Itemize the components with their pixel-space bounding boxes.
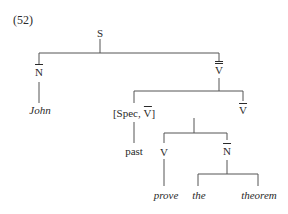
node-spec: [Spec, V] xyxy=(113,107,155,119)
example-number: (52) xyxy=(13,13,33,28)
node-verb-label: V xyxy=(160,146,168,158)
word-john: John xyxy=(29,104,50,116)
node-verb: V xyxy=(160,146,168,158)
node-vbar: V xyxy=(239,104,247,116)
word-the-label: the xyxy=(192,189,205,201)
node-subject-nbar-label: N xyxy=(35,66,43,78)
node-s-label: S xyxy=(97,27,103,39)
node-s: S xyxy=(97,27,103,39)
word-theorem-label: theorem xyxy=(241,189,277,201)
node-spec-cat: V xyxy=(143,107,151,119)
word-the: the xyxy=(192,189,205,201)
word-theorem: theorem xyxy=(241,189,277,201)
node-subject-nbar: N xyxy=(35,66,43,78)
node-object-nbar-label: N xyxy=(223,145,231,157)
node-vp-label: V xyxy=(215,64,223,76)
node-vbar-label: V xyxy=(239,104,247,116)
node-object-nbar: N xyxy=(223,145,231,157)
node-spec-pre: [Spec, xyxy=(113,107,144,119)
word-past-label: past xyxy=(125,145,143,157)
word-john-label: John xyxy=(29,104,50,116)
word-past: past xyxy=(125,145,143,157)
word-prove: prove xyxy=(154,189,179,201)
node-spec-post: ] xyxy=(151,107,155,119)
word-prove-label: prove xyxy=(154,189,179,201)
node-vp-double-bar: V xyxy=(215,64,223,76)
